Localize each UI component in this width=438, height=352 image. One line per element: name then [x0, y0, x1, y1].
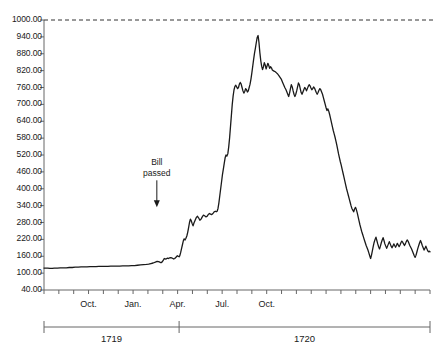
y-axis-tick-label: 940.00 — [0, 32, 42, 41]
x-axis-month-label: Oct. — [237, 299, 297, 309]
x-axis-ticks — [44, 290, 430, 294]
annotation-label-line2: passed — [117, 168, 197, 178]
y-axis-tick-label: 340.00 — [0, 201, 42, 210]
y-axis-tick-label: 40.00 — [0, 285, 42, 294]
y-axis-tick-label: 700.00 — [0, 99, 42, 108]
y-axis-tick-label: 880.00 — [0, 49, 42, 58]
y-axis-tick-label: 1000.00 — [0, 15, 42, 24]
y-axis-tick-label: 160.00 — [0, 251, 42, 260]
y-axis-tick-label: 100.00 — [0, 268, 42, 277]
y-axis-tick-label: 760.00 — [0, 83, 42, 92]
year-band-label: 1720 — [265, 333, 345, 344]
year-band-label: 1719 — [72, 333, 152, 344]
y-axis-tick-label: 400.00 — [0, 184, 42, 193]
data-series-group — [44, 35, 430, 268]
y-axis-tick-label: 580.00 — [0, 133, 42, 142]
y-axis-tick-label: 220.00 — [0, 234, 42, 243]
annotation-arrow-group — [154, 180, 160, 207]
year-band-axis — [44, 321, 430, 333]
chart-container: 1000.00940.00880.00820.00760.00700.00640… — [0, 0, 438, 352]
y-axis-tick-label: 520.00 — [0, 150, 42, 159]
annotation-arrow-head — [154, 200, 160, 207]
y-axis-tick-label: 820.00 — [0, 66, 42, 75]
y-axis-tick-label: 280.00 — [0, 218, 42, 227]
y-axis-tick-label: 640.00 — [0, 116, 42, 125]
series-line — [44, 35, 430, 268]
annotation-label-line1: Bill — [117, 157, 197, 167]
y-axis-tick-label: 460.00 — [0, 167, 42, 176]
